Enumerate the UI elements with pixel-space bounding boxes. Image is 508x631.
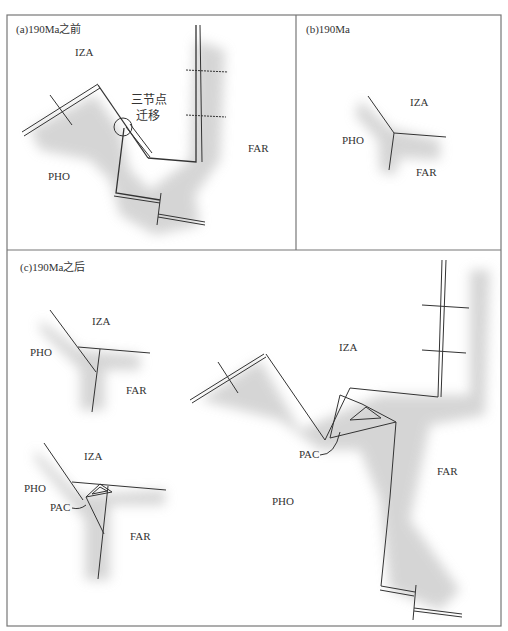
- migration-annotation-line2: 迁移: [136, 109, 160, 123]
- plate-label-pho: PHO: [24, 482, 46, 494]
- plate-label-far: FAR: [130, 530, 151, 542]
- panel-b: (b)190Ma IZA PHO FAR: [306, 23, 446, 178]
- plate-tectonics-diagram: (a)190Ma之前 IZA FAR PHO 三节点 迁移 (b)190Ma I…: [0, 0, 508, 631]
- plate-label-iza: IZA: [92, 315, 110, 327]
- panel-c: (c)190Ma之后 IZA PHO FAR IZA PHO PAC FAR: [20, 260, 490, 620]
- plate-label-pac: PAC: [50, 501, 70, 513]
- panel-b-title: (b)190Ma: [306, 23, 350, 36]
- plate-label-iza: IZA: [84, 450, 102, 462]
- plate-label-iza: IZA: [339, 341, 357, 353]
- shaded-zone: [200, 270, 490, 610]
- migration-annotation-line1: 三节点: [131, 93, 167, 107]
- shaded-zone: [355, 100, 440, 175]
- plate-label-iza: IZA: [75, 46, 93, 58]
- plate-label-pho: PHO: [30, 346, 52, 358]
- plate-label-far: FAR: [416, 166, 437, 178]
- shaded-zone: [40, 320, 140, 410]
- panel-a-title: (a)190Ma之前: [16, 22, 81, 36]
- plate-label-pho: PHO: [48, 170, 70, 182]
- plate-label-far: FAR: [126, 384, 147, 396]
- plate-label-iza: IZA: [410, 96, 428, 108]
- plate-label-pac: PAC: [299, 448, 319, 460]
- plate-label-pho: PHO: [342, 134, 364, 146]
- plate-label-far: FAR: [248, 142, 269, 154]
- plate-label-far: FAR: [437, 465, 458, 477]
- plate-label-pho: PHO: [272, 495, 294, 507]
- panel-a: (a)190Ma之前 IZA FAR PHO 三节点 迁移: [16, 22, 269, 235]
- panel-c-title: (c)190Ma之后: [20, 260, 85, 274]
